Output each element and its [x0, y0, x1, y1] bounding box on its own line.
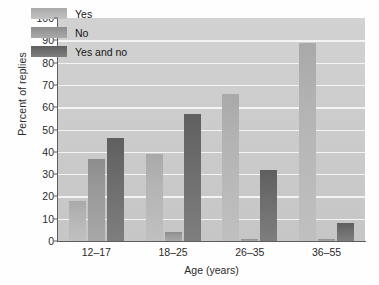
y-tick-mark: [54, 62, 58, 63]
y-tick-label: 50: [22, 124, 54, 136]
x-axis-line: [57, 241, 366, 242]
y-tick-label: 70: [22, 79, 54, 91]
bar-chart-figure: Percent of replies 010203040506070809010…: [0, 0, 379, 285]
y-tick-label: 20: [22, 190, 54, 202]
legend-item: Yes: [31, 4, 181, 23]
legend-label: Yes and no: [75, 46, 127, 58]
legend-swatch: [31, 46, 67, 57]
legend-swatch: [31, 8, 67, 19]
legend-label: Yes: [75, 8, 92, 20]
bar: [318, 239, 335, 241]
x-axis-title: Age (years): [58, 264, 365, 276]
bar: [165, 232, 182, 241]
chart-legend: YesNoYes and no: [31, 4, 181, 61]
gridline: [58, 152, 365, 153]
gridline: [58, 63, 365, 64]
gridline: [58, 107, 365, 108]
bar: [107, 138, 124, 241]
bar: [184, 114, 201, 241]
bar: [337, 223, 354, 241]
bar: [146, 154, 163, 241]
y-tick-label: 0: [22, 235, 54, 247]
y-tick-mark: [54, 174, 58, 175]
bar: [222, 94, 239, 241]
y-tick-label: 30: [22, 168, 54, 180]
y-tick-mark: [54, 107, 58, 108]
bar: [241, 239, 258, 241]
gridline: [58, 85, 365, 86]
bar: [260, 170, 277, 241]
x-tick-label: 36–55: [282, 246, 372, 258]
y-tick-mark: [54, 196, 58, 197]
y-tick-mark: [54, 84, 58, 85]
gridline: [58, 130, 365, 131]
y-tick-label: 40: [22, 146, 54, 158]
y-tick-label: 10: [22, 213, 54, 225]
y-tick-mark: [54, 218, 58, 219]
bar: [299, 43, 316, 241]
legend-swatch: [31, 27, 67, 38]
legend-item: Yes and no: [31, 42, 181, 61]
y-tick-mark: [54, 40, 58, 41]
y-tick-mark: [54, 18, 58, 19]
y-tick-label: 60: [22, 101, 54, 113]
bar: [69, 201, 86, 241]
y-tick-mark: [54, 241, 58, 242]
y-tick-mark: [54, 151, 58, 152]
y-tick-mark: [54, 129, 58, 130]
legend-label: No: [75, 27, 88, 39]
bar: [88, 159, 105, 242]
